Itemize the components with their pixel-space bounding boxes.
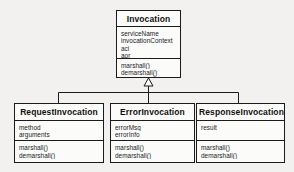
class-box-response-invocation[interactable]: ResponseInvocation result marshall() dem…: [196, 103, 285, 163]
class-box-error-invocation[interactable]: ErrorInvocation errorMsg errorInfo marsh…: [110, 103, 195, 163]
class-box-request-invocation[interactable]: RequestInvocation method arguments marsh…: [14, 103, 104, 163]
attribute: arguments: [19, 131, 99, 138]
attribute: serviceName: [121, 30, 176, 37]
class-box-invocation[interactable]: Invocation serviceName invocationContext…: [116, 10, 181, 78]
attribute: method: [19, 124, 99, 131]
operation: demarshall(): [121, 69, 176, 76]
class-operations-request-invocation: marshall() demarshall(): [15, 141, 103, 162]
class-name-response-invocation: ResponseInvocation: [197, 104, 284, 121]
attribute: invocationContext: [121, 37, 176, 44]
class-attributes-error-invocation: errorMsg errorInfo: [111, 121, 194, 141]
class-attributes-response-invocation: result: [197, 121, 284, 141]
generalization-triangle: [144, 78, 153, 86]
operation: demarshall(): [201, 152, 280, 159]
uml-class-diagram-canvas: Invocation serviceName invocationContext…: [0, 0, 294, 172]
operation: marshall(): [115, 144, 190, 151]
attribute: aci: [121, 45, 176, 52]
class-name-request-invocation: RequestInvocation: [15, 104, 103, 121]
attribute: errorMsg: [115, 124, 190, 131]
class-name-error-invocation: ErrorInvocation: [111, 104, 194, 121]
class-operations-response-invocation: marshall() demarshall(): [197, 141, 284, 162]
class-name-invocation: Invocation: [117, 11, 180, 27]
class-operations-invocation: marshall() demarshall(): [117, 59, 180, 77]
operation: marshall(): [201, 144, 280, 151]
class-operations-error-invocation: marshall() demarshall(): [111, 141, 194, 162]
attribute: result: [201, 124, 280, 131]
operation: demarshall(): [19, 152, 99, 159]
operation: demarshall(): [115, 152, 190, 159]
operation: marshall(): [19, 144, 99, 151]
attribute: errorInfo: [115, 131, 190, 138]
class-attributes-invocation: serviceName invocationContext aci aor: [117, 27, 180, 59]
operation: marshall(): [121, 62, 176, 69]
class-attributes-request-invocation: method arguments: [15, 121, 103, 141]
